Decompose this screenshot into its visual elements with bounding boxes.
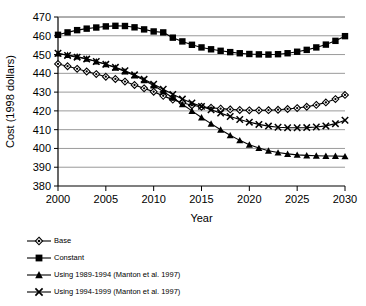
data-marker <box>160 29 166 35</box>
data-marker <box>275 51 281 57</box>
data-marker <box>217 48 223 54</box>
chart-figure: 3803904004104204304404504604702000200520… <box>0 0 366 306</box>
x-tick-label: 2005 <box>94 193 118 205</box>
legend-item-manton-1994-1999: Using 1994-1999 (Manton et al. 1997) <box>26 283 356 300</box>
legend-label-constant: Constant <box>52 253 84 263</box>
x-axis-title: Year <box>190 212 213 224</box>
data-marker <box>198 44 204 50</box>
data-marker <box>170 34 176 40</box>
data-marker-center <box>334 98 336 100</box>
y-tick-label: 440 <box>33 67 51 79</box>
y-tick-label: 460 <box>33 30 51 42</box>
data-marker <box>112 23 118 29</box>
data-marker <box>55 32 61 38</box>
data-marker-center <box>124 80 126 82</box>
data-marker-center <box>325 101 327 103</box>
data-marker <box>208 120 215 126</box>
x-tick-label: 2025 <box>285 193 309 205</box>
data-marker <box>256 51 262 57</box>
line-chart-svg: 3803904004104204304404504604702000200520… <box>0 0 366 230</box>
data-marker-center <box>162 95 164 97</box>
data-marker <box>342 33 348 39</box>
data-marker-center <box>267 109 269 111</box>
y-tick-label: 400 <box>33 142 51 154</box>
data-marker-center <box>306 106 308 108</box>
data-marker <box>236 137 243 143</box>
data-marker <box>64 29 70 35</box>
data-marker-center <box>258 109 260 111</box>
data-marker <box>284 50 290 56</box>
legend-label-manton-1994-1999: Using 1994-1999 (Manton et al. 1997) <box>52 287 180 297</box>
data-marker <box>304 47 310 53</box>
y-axis-title: Cost (1998 dollars) <box>4 55 16 148</box>
data-marker-center <box>239 109 241 111</box>
data-marker-center <box>286 108 288 110</box>
data-marker <box>237 50 243 56</box>
legend-item-base: Base <box>26 232 356 249</box>
data-marker <box>122 23 128 29</box>
legend-key-x-icon <box>26 285 52 299</box>
legend-label-manton-1989-1994: Using 1989-1994 (Manton et al. 1997) <box>52 270 180 280</box>
plot-area: 3803904004104204304404504604702000200520… <box>0 0 366 230</box>
data-marker-center <box>344 94 346 96</box>
y-tick-label: 390 <box>33 161 51 173</box>
legend-key-triangle-icon <box>26 268 52 282</box>
legend-label-base: Base <box>52 236 71 246</box>
legend-item-manton-1989-1994: Using 1989-1994 (Manton et al. 1997) <box>26 266 356 283</box>
data-marker-center <box>57 63 59 65</box>
data-marker <box>141 26 147 32</box>
legend-key-square-icon <box>26 251 52 265</box>
data-marker <box>74 27 80 33</box>
series-1 <box>55 23 348 58</box>
data-marker <box>208 46 214 52</box>
y-tick-label: 410 <box>33 124 51 136</box>
data-marker-center <box>315 104 317 106</box>
data-marker-center <box>95 73 97 75</box>
data-marker <box>265 51 271 57</box>
x-tick-label: 2015 <box>189 193 213 205</box>
chart-legend: Base Constant Using 1989-1994 (Manton et… <box>26 232 356 300</box>
data-marker-center <box>229 108 231 110</box>
x-tick-label: 2020 <box>237 193 261 205</box>
data-marker <box>255 145 262 151</box>
data-marker-center <box>66 65 68 67</box>
data-marker <box>246 51 252 57</box>
y-tick-label: 380 <box>33 180 51 192</box>
data-marker <box>189 42 195 48</box>
data-marker <box>323 41 329 47</box>
x-tick-label: 2010 <box>141 193 165 205</box>
data-marker <box>103 23 109 29</box>
data-marker <box>246 141 253 147</box>
data-marker <box>227 132 234 138</box>
data-marker <box>179 38 185 44</box>
legend-key-diamond-icon <box>26 234 52 248</box>
data-marker-center <box>76 68 78 70</box>
data-marker <box>131 24 137 30</box>
data-marker <box>198 114 205 120</box>
data-marker-center <box>143 87 145 89</box>
y-tick-label: 420 <box>33 105 51 117</box>
data-marker <box>227 49 233 55</box>
data-marker-center <box>105 76 107 78</box>
data-marker-center <box>114 78 116 80</box>
data-marker-center <box>277 109 279 111</box>
data-marker <box>313 44 319 50</box>
data-marker <box>332 38 338 44</box>
data-marker-center <box>86 70 88 72</box>
x-tick-label: 2030 <box>333 193 357 205</box>
x-tick-label: 2000 <box>46 193 70 205</box>
data-marker <box>84 25 90 31</box>
y-tick-label: 450 <box>33 49 51 61</box>
data-marker-center <box>296 107 298 109</box>
y-tick-label: 430 <box>33 86 51 98</box>
data-marker <box>294 49 300 55</box>
data-marker <box>93 24 99 30</box>
data-marker <box>150 28 156 34</box>
data-marker-center <box>133 84 135 86</box>
data-marker-center <box>248 109 250 111</box>
y-tick-label: 470 <box>33 11 51 23</box>
data-marker-center <box>219 107 221 109</box>
data-marker-center <box>153 91 155 93</box>
legend-item-constant: Constant <box>26 249 356 266</box>
